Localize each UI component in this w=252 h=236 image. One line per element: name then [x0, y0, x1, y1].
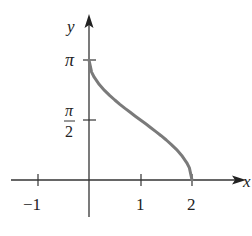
chart: x y −1 1 2 π π 2 — [0, 0, 252, 236]
y-tick-label-pi-half-den: 2 — [65, 123, 73, 140]
x-tick-label-neg1: −1 — [23, 195, 41, 214]
y-tick-label-pi: π — [65, 50, 75, 70]
x-tick-label-1: 1 — [136, 195, 145, 214]
y-axis-label: y — [65, 17, 75, 36]
x-tick-label-2: 2 — [187, 195, 196, 214]
series-line-arccos — [89, 60, 192, 180]
y-tick-label-pi-half-num: π — [65, 102, 74, 119]
x-axis-label: x — [242, 172, 251, 191]
